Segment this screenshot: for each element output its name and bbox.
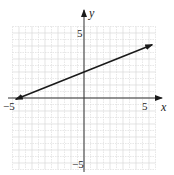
- coordinate-plane: −5 5 5 −5 x y: [0, 0, 174, 175]
- x-tick-max: 5: [142, 100, 148, 112]
- axes: [8, 10, 162, 172]
- y-tick-min: −5: [72, 158, 84, 170]
- y-axis-label: y: [88, 6, 95, 20]
- y-tick-max: 5: [77, 27, 83, 39]
- x-axis-label: x: [160, 100, 167, 114]
- x-tick-min: −5: [3, 100, 15, 112]
